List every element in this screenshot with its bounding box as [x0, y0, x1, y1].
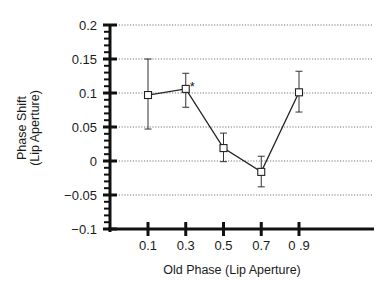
significance-asterisk: *	[190, 79, 195, 94]
axes	[103, 24, 374, 236]
x-tick-label: 0.3	[177, 238, 195, 253]
data-marker-square	[145, 92, 152, 99]
x-axis-title: Old Phase (Lip Aperture)	[163, 263, 301, 277]
y-axis-title-line-2: (Lip Aperture)	[28, 90, 42, 166]
y-tick-label: −0.1	[71, 222, 97, 237]
y-tick-labels: 0.20.150.10.050−0.05−0.1	[64, 18, 97, 237]
gridlines	[116, 25, 372, 195]
data-series	[145, 59, 303, 187]
y-tick-label: 0.2	[79, 18, 97, 33]
y-axis-title: Phase Shift (Lip Aperture)	[15, 90, 42, 166]
y-tick-label: 0	[90, 154, 97, 169]
y-tick-label: 0.1	[79, 86, 97, 101]
phase-shift-chart: 0.20.150.10.050−0.05−0.1 0.10.30.50.70 .…	[0, 0, 392, 295]
y-tick-label: −0.05	[64, 188, 97, 203]
data-marker-square	[220, 145, 227, 152]
data-marker-square	[182, 85, 189, 92]
x-tick-label: 0.5	[214, 238, 232, 253]
x-tick-label: 0.7	[252, 238, 270, 253]
y-tick-label: 0.15	[72, 52, 97, 67]
x-tick-label: 0 .9	[288, 238, 310, 253]
data-marker-square	[296, 89, 303, 96]
annotations: *	[190, 79, 195, 94]
x-tick-label: 0.1	[139, 238, 157, 253]
x-tick-labels: 0.10.30.50.70 .9	[139, 238, 310, 253]
y-tick-label: 0.05	[72, 120, 97, 135]
y-axis-title-line-1: Phase Shift	[15, 96, 29, 160]
data-marker-square	[258, 168, 265, 175]
